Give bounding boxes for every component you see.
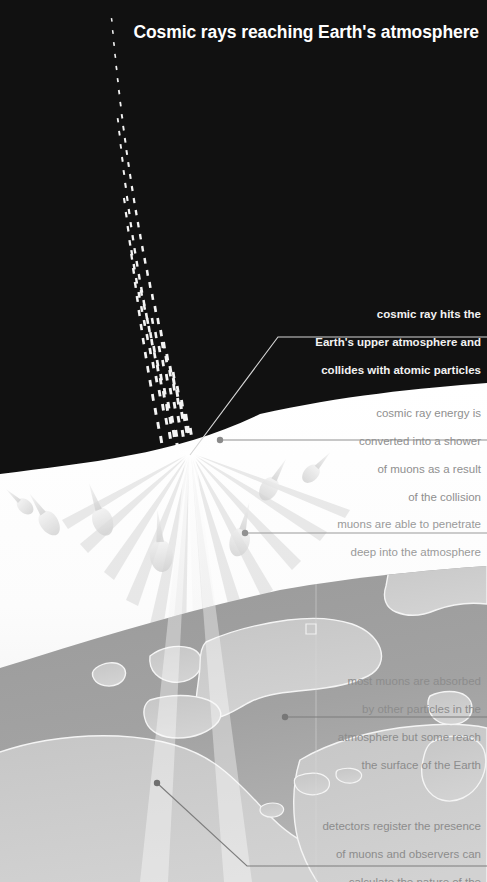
callout-muon-shower: cosmic ray energy is converted into a sh… (241, 392, 481, 518)
callout-line: detectors register the presence (181, 819, 481, 833)
callout-line: converted into a shower (241, 434, 481, 448)
callout-line: Earth's upper atmosphere and (221, 335, 481, 349)
impact-point (174, 445, 206, 463)
callout-muon-penetration: muons are able to penetrate deep into th… (231, 503, 481, 573)
callout-line: deep into the atmosphere (231, 545, 481, 559)
callout-line: of muons and observers can (181, 847, 481, 861)
callout-cosmic-ray-impact: cosmic ray hits the Earth's upper atmosp… (221, 293, 481, 391)
callout-line: cosmic ray energy is (241, 406, 481, 420)
infographic-canvas: Cosmic rays reaching Earth's atmosphere … (0, 0, 487, 882)
callout-line: atmosphere but some reach (231, 730, 481, 744)
callout-line: the surface of the Earth (231, 758, 481, 772)
callout-line: of muons as a result (241, 462, 481, 476)
callout-line: muons are able to penetrate (231, 517, 481, 531)
callout-line: calculate the nature of the (181, 875, 481, 882)
callout-line: by other particles in the (231, 702, 481, 716)
callout-line: collides with atomic particles (221, 363, 481, 377)
callout-muon-absorption: most muons are absorbed by other particl… (231, 660, 481, 786)
page-title: Cosmic rays reaching Earth's atmosphere (0, 22, 479, 43)
callout-detectors: detectors register the presence of muons… (181, 805, 481, 882)
callout-line: most muons are absorbed (231, 674, 481, 688)
callout-line: cosmic ray hits the (221, 307, 481, 321)
